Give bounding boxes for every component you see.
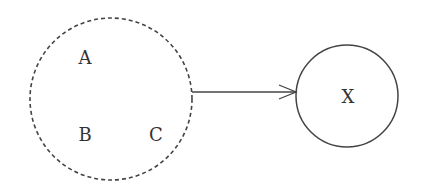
target-label-x: X (342, 86, 355, 107)
arrow-edge (192, 85, 296, 99)
dashed-group-circle (30, 18, 192, 180)
member-label-a: A (78, 47, 93, 68)
member-label-c: C (149, 124, 163, 145)
diagram-canvas: A B C X (0, 0, 422, 189)
group-node: A B C (30, 18, 192, 180)
member-label-b: B (78, 124, 91, 145)
target-node: X (296, 45, 398, 147)
